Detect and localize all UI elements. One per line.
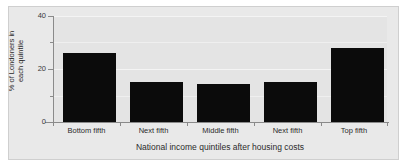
y-tick-20 xyxy=(48,69,54,70)
y-tick-10 xyxy=(50,96,54,97)
x-axis-title: National income quintiles after housing … xyxy=(53,142,387,152)
y-axis-title: % of Londoners in each quintile xyxy=(7,13,25,109)
x-tick-label-next-fifth-1: Next fifth xyxy=(120,126,187,135)
y-tick-label-0: 0 xyxy=(4,118,46,126)
bar-bottom-fifth xyxy=(63,53,116,122)
y-axis-title-line1: % of Londoners in xyxy=(7,13,16,109)
x-axis-line xyxy=(45,122,389,123)
bar-next-fifth-2 xyxy=(264,82,317,122)
gridline-40 xyxy=(53,16,387,17)
bar-next-fifth-1 xyxy=(130,82,183,122)
bar-top-fifth xyxy=(331,48,384,122)
y-tick-30 xyxy=(50,42,54,43)
x-tick-label-top-fifth: Top fifth xyxy=(321,126,387,135)
y-tick-40 xyxy=(48,16,54,17)
chart-figure: 40 20 0 % of Londoners in each quintile … xyxy=(0,0,407,166)
x-tick-label-middle-fifth: Middle fifth xyxy=(187,126,254,135)
x-tick-label-next-fifth-2: Next fifth xyxy=(254,126,321,135)
x-tick-label-bottom-fifth: Bottom fifth xyxy=(53,126,120,135)
bar-middle-fifth xyxy=(197,84,250,122)
y-axis-title-line2: each quintile xyxy=(16,13,25,109)
plot-area xyxy=(53,16,387,122)
gridline-30 xyxy=(53,42,387,43)
x-tick-5 xyxy=(387,122,388,126)
